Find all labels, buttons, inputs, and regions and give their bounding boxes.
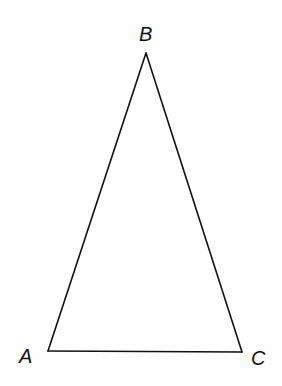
vertex-label-c: C [251, 348, 265, 368]
side-ab [48, 53, 146, 351]
side-ac [48, 351, 242, 352]
triangle-diagram: B A C [0, 0, 282, 386]
vertex-label-a: A [19, 346, 32, 366]
vertex-label-b: B [139, 24, 152, 44]
side-bc [146, 53, 242, 352]
triangle-canvas [0, 0, 282, 386]
